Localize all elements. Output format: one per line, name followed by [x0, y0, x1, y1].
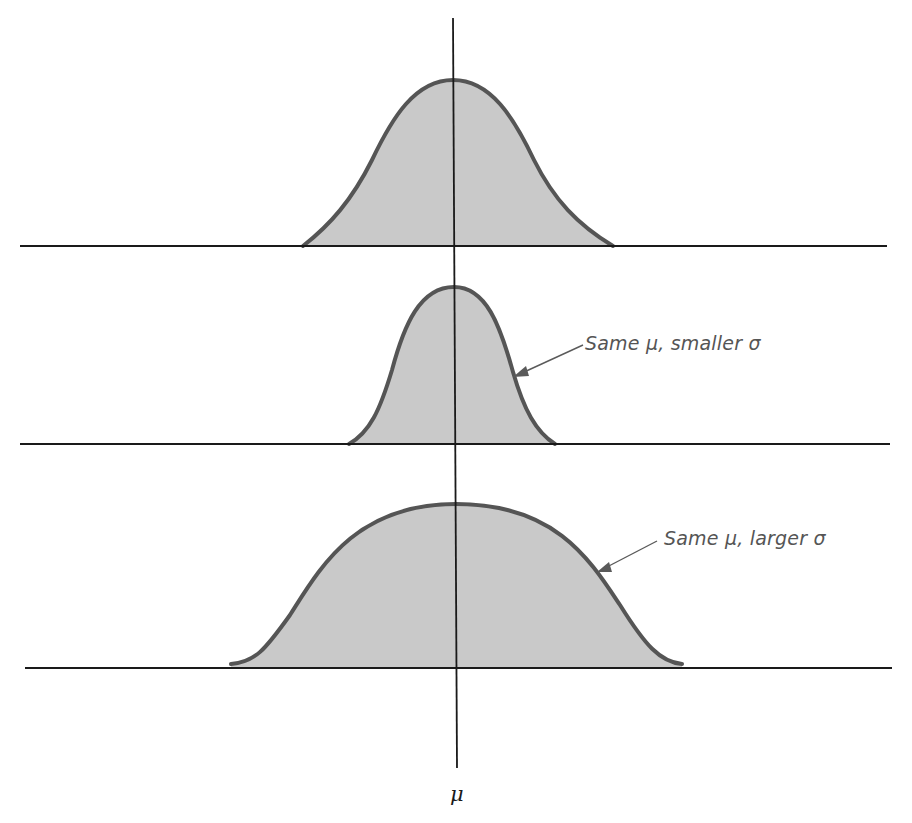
- smaller-sigma-arrowhead-icon: [513, 366, 529, 377]
- smaller-sigma-arrow: [522, 345, 583, 373]
- diagram-canvas: [0, 0, 912, 823]
- mean-axis-label: μ: [450, 782, 464, 806]
- smaller-sigma-curve-fill: [349, 287, 555, 444]
- larger-sigma-arrowhead-icon: [597, 562, 612, 572]
- reference-curve-fill: [303, 80, 613, 246]
- larger-sigma-arrow: [605, 541, 657, 568]
- smaller-sigma-label: Same μ, smaller σ: [585, 332, 761, 354]
- larger-sigma-label: Same μ, larger σ: [664, 527, 826, 549]
